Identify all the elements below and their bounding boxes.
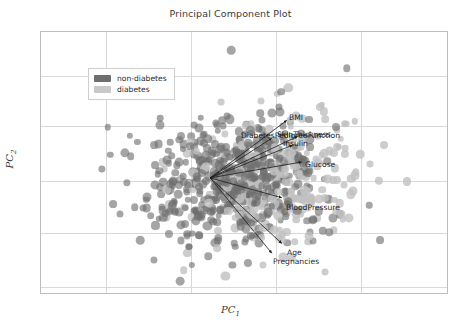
legend: non-diabetes diabetes [88, 68, 175, 100]
x-axis-label-text: PC [221, 304, 235, 315]
loading-vector-label-age: Age [287, 248, 302, 257]
loading-vector-label-bmi: BMI [289, 113, 303, 122]
loading-vector-label-insulin: Insulin [283, 139, 308, 148]
legend-item-non-diabetes[interactable]: non-diabetes [94, 73, 167, 84]
loading-vector-label-glucose: Glucose [305, 160, 335, 169]
chart-title: Principal Component Plot [0, 8, 461, 19]
y-axis-label: PC2 [4, 139, 18, 179]
principal-component-plot: Principal Component Plot BMISkinThicknes… [0, 0, 461, 327]
x-axis-label: PC1 [0, 304, 461, 318]
x-axis-label-subscript: 1 [235, 310, 239, 318]
legend-label-non-diabetes: non-diabetes [117, 74, 167, 83]
y-axis-label-subscript: 2 [10, 150, 18, 154]
y-axis-label-text: PC [4, 154, 15, 168]
legend-item-diabetes[interactable]: diabetes [94, 84, 167, 95]
legend-label-diabetes: diabetes [117, 85, 150, 94]
loading-vector-label-bloodpressure: BloodPressure [286, 203, 340, 212]
legend-swatch-diabetes [94, 86, 111, 93]
plot-area: BMISkinThicknessDiabetesPedigreeFunction… [40, 31, 448, 294]
loading-vector-label-pregnancies: Pregnancies [273, 257, 319, 266]
legend-swatch-non-diabetes [94, 75, 111, 82]
